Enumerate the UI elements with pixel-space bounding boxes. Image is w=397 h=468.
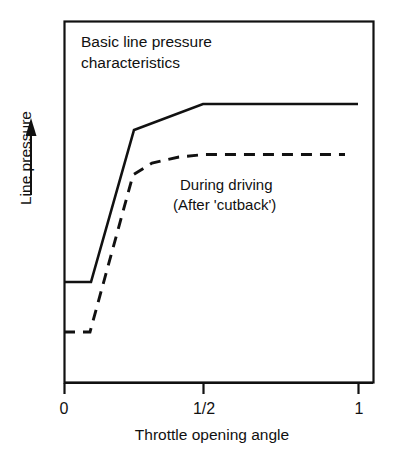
x-tick-label-half: 1/2 <box>193 400 215 417</box>
x-axis-label: Throttle opening angle <box>135 426 289 443</box>
annotation-line-1: During driving <box>180 176 273 193</box>
line-pressure-chart: Basic line pressure characteristics Duri… <box>0 0 397 468</box>
y-axis-label: Line pressure <box>17 111 34 205</box>
chart-title-line-1: Basic line pressure <box>81 33 212 50</box>
x-tick-label-1: 1 <box>355 400 364 417</box>
annotation-line-2: (After 'cutback') <box>173 196 276 213</box>
chart-title-line-2: characteristics <box>81 54 180 71</box>
x-tick-label-0: 0 <box>60 400 69 417</box>
